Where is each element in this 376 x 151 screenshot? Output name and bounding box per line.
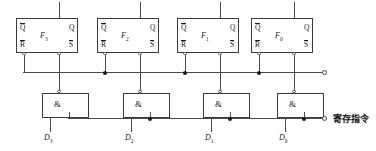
junction-dot-control-d2 <box>148 117 152 121</box>
pin-label-q-f2: Q <box>150 23 155 32</box>
control-terminal[interactable] <box>322 116 327 121</box>
and-gate-symbol-d3: & <box>54 99 61 109</box>
gate-output-port-d1 <box>218 90 222 94</box>
pin-label-rbar-f1: R <box>181 41 186 49</box>
reset-terminal[interactable] <box>322 70 327 75</box>
reset-drop-f2 <box>105 55 106 72</box>
data-input-stub-d0 <box>285 118 286 132</box>
sbar-drop-f3 <box>59 55 60 93</box>
q-output-stub-f0 <box>294 2 295 18</box>
flipflop-index-f2: 2 <box>126 36 129 42</box>
pin-label-rbar-f0: R <box>255 41 260 49</box>
and-gate-d1[interactable] <box>203 93 250 118</box>
pin-label-sbar-f1: S <box>230 41 234 49</box>
data-input-stub-d3 <box>50 118 51 132</box>
data-index-d3: 3 <box>50 138 53 144</box>
and-gate-symbol-d2: & <box>135 99 142 109</box>
q-output-stub-f2 <box>140 2 141 18</box>
junction-dot-reset-f2 <box>103 71 107 75</box>
pin-label-qbar-f3: Q <box>20 24 25 32</box>
data-input-stub-d1 <box>211 118 212 132</box>
sbar-drop-f0 <box>294 55 295 93</box>
control-line-label: 寄存指令 <box>333 112 369 125</box>
pin-label-rbar-f2: R <box>101 41 106 49</box>
pin-label-q-f1: Q <box>230 23 235 32</box>
q-output-stub-f1 <box>220 2 221 18</box>
and-gate-d2[interactable] <box>123 93 170 118</box>
pin-label-sbar-f3: S <box>69 41 73 49</box>
pin-label-qbar-f2: Q <box>101 24 106 32</box>
pin-label-sbar-f0: S <box>304 41 308 49</box>
junction-dot-reset-f1 <box>183 71 187 75</box>
and-gate-symbol-d0: & <box>289 99 296 109</box>
pin-label-q-f0: Q <box>304 23 309 32</box>
reset-drop-f0 <box>259 55 260 72</box>
data-index-d0: 0 <box>285 138 288 144</box>
junction-dot-control-d1 <box>228 117 232 121</box>
gate-output-port-d2 <box>138 90 142 94</box>
control-bus-line <box>68 118 323 119</box>
flipflop-index-f1: 1 <box>206 36 209 42</box>
reset-drop-f3 <box>24 55 25 72</box>
pin-label-qbar-f0: Q <box>255 24 260 32</box>
gate-output-port-d0 <box>292 90 296 94</box>
and-gate-symbol-d1: & <box>215 99 222 109</box>
sbar-drop-f2 <box>140 55 141 93</box>
reset-drop-f1 <box>185 55 186 72</box>
and-gate-d3[interactable] <box>42 93 89 118</box>
and-gate-d0[interactable] <box>277 93 324 118</box>
pin-label-qbar-f1: Q <box>181 24 186 32</box>
reset-bus-line <box>23 72 323 73</box>
data-index-d2: 2 <box>131 138 134 144</box>
pin-label-sbar-f2: S <box>150 41 154 49</box>
q-output-stub-f3 <box>59 2 60 18</box>
gate-output-port-d3 <box>57 90 61 94</box>
flipflop-index-f0: 0 <box>280 36 283 42</box>
pin-label-q-f3: Q <box>69 23 74 32</box>
data-index-d1: 1 <box>211 138 214 144</box>
pin-label-rbar-f3: R <box>20 41 25 49</box>
junction-dot-control-d0 <box>302 117 306 121</box>
circuit-diagram: Q Q R S F3 Q Q R S F2 Q Q R S F1 Q Q R S… <box>0 0 376 151</box>
flipflop-index-f3: 3 <box>45 36 48 42</box>
junction-dot-reset-f0 <box>257 71 261 75</box>
data-input-stub-d2 <box>131 118 132 132</box>
sbar-drop-f1 <box>220 55 221 93</box>
